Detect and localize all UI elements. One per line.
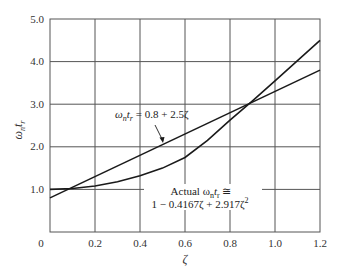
- origin-label: 0: [38, 237, 44, 249]
- linear-approx-label: ωntr = 0.8 + 2.5ζ: [115, 108, 189, 123]
- x-tick-labels: 0 0.2 0.4 0.6 0.8 1.0 1.2: [38, 237, 327, 249]
- y-tick-labels: 1.0 2.0 3.0 4.0 5.0: [30, 13, 44, 195]
- x-tick: 0.8: [223, 237, 237, 249]
- x-axis-label: ζ: [183, 252, 189, 266]
- y-tick: 1.0: [30, 183, 44, 195]
- x-tick: 0.2: [88, 237, 102, 249]
- y-tick: 2.0: [30, 140, 44, 152]
- actual-label-line2: 1 − 0.4167ζ + 2.917ζ2: [151, 196, 248, 211]
- x-tick: 0.6: [178, 237, 192, 249]
- y-tick: 3.0: [30, 98, 44, 110]
- x-tick: 0.4: [133, 237, 147, 249]
- y-axis-label: ωntr: [11, 120, 27, 140]
- x-tick: 1.2: [313, 237, 327, 249]
- y-tick: 4.0: [30, 55, 44, 67]
- x-tick: 1.0: [268, 237, 282, 249]
- arrowhead-icon: [160, 137, 165, 143]
- chart: 1.0 2.0 3.0 4.0 5.0 0 0.2 0.4 0.6 0.8 1.…: [0, 0, 342, 273]
- y-tick: 5.0: [30, 13, 44, 25]
- svg-text:ωntr: ωntr: [11, 120, 27, 140]
